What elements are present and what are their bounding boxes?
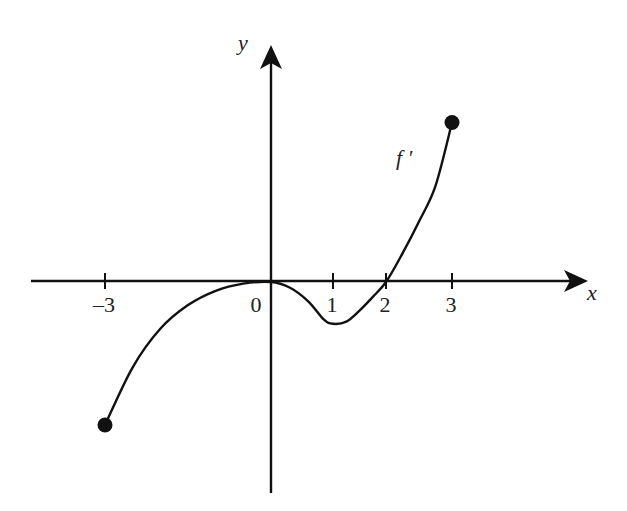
f-prime-label: f '	[396, 145, 413, 170]
closed-endpoint-dot	[98, 418, 113, 433]
x-tick-label: 0	[251, 292, 262, 317]
function-graph: –30123 x y f '	[0, 0, 627, 511]
closed-endpoint-dot	[445, 115, 460, 130]
x-axis-label: x	[586, 280, 597, 305]
x-tick-label: 3	[446, 292, 457, 317]
x-tick-label: –3	[92, 292, 115, 317]
x-tick-label: 2	[380, 292, 391, 317]
y-axis-label: y	[236, 30, 248, 55]
x-axis-tick-labels: –30123	[92, 292, 457, 317]
x-tick-label: 1	[327, 292, 338, 317]
